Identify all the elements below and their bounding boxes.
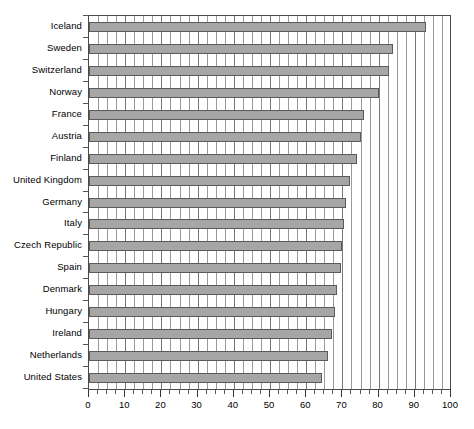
category-label: Hungary	[0, 306, 82, 316]
x-tick-minor	[369, 390, 370, 394]
y-axis-tick	[83, 366, 88, 367]
gridline-minor	[433, 16, 434, 389]
category-label: Switzerland	[0, 65, 82, 75]
gridline-major	[415, 16, 416, 389]
x-tick-minor	[396, 390, 397, 394]
x-tick-label: 0	[85, 399, 90, 410]
bar	[89, 219, 344, 229]
y-axis-tick	[83, 234, 88, 235]
plot-area	[88, 15, 451, 390]
x-tick-minor	[251, 390, 252, 394]
x-tick-major	[124, 390, 125, 397]
x-tick-minor	[423, 390, 424, 394]
x-tick-minor	[224, 390, 225, 394]
x-axis-ticks	[88, 390, 451, 398]
category-label: United States	[0, 372, 82, 382]
bar	[89, 198, 346, 208]
x-tick-label: 30	[191, 399, 202, 410]
x-tick-major	[305, 390, 306, 397]
y-axis-tick	[83, 212, 88, 213]
x-tick-major	[414, 390, 415, 397]
x-tick-minor	[151, 390, 152, 394]
gridline-minor	[442, 16, 443, 389]
x-tick-minor	[405, 390, 406, 394]
y-axis-tick	[83, 256, 88, 257]
x-tick-label: 100	[442, 399, 458, 410]
x-tick-minor	[296, 390, 297, 394]
gridline-minor	[424, 16, 425, 389]
x-tick-minor	[332, 390, 333, 394]
x-tick-minor	[188, 390, 189, 394]
y-axis-tick	[83, 388, 88, 389]
x-tick-label: 80	[372, 399, 383, 410]
category-label: Finland	[0, 153, 82, 163]
x-tick-minor	[432, 390, 433, 394]
x-tick-minor	[215, 390, 216, 394]
y-axis-tick	[83, 147, 88, 148]
bar	[89, 44, 393, 54]
x-tick-label: 50	[264, 399, 275, 410]
x-tick-minor	[133, 390, 134, 394]
x-tick-minor	[206, 390, 207, 394]
x-tick-label: 90	[409, 399, 420, 410]
x-tick-label: 40	[228, 399, 239, 410]
category-label: Netherlands	[0, 350, 82, 360]
x-tick-label: 70	[336, 399, 347, 410]
y-axis-tick	[83, 125, 88, 126]
x-tick-minor	[179, 390, 180, 394]
category-label: France	[0, 109, 82, 119]
category-axis-labels: IcelandSwedenSwitzerlandNorwayFranceAust…	[0, 15, 82, 390]
bar	[89, 329, 332, 339]
category-label: Ireland	[0, 328, 82, 338]
bar	[89, 66, 389, 76]
category-label: Italy	[0, 218, 82, 228]
bar	[89, 22, 426, 32]
x-tick-minor	[350, 390, 351, 394]
bar	[89, 154, 357, 164]
x-tick-minor	[260, 390, 261, 394]
x-tick-minor	[314, 390, 315, 394]
x-tick-major	[341, 390, 342, 397]
category-label: Iceland	[0, 21, 82, 31]
category-label: United Kingdom	[0, 175, 82, 185]
bar	[89, 176, 350, 186]
category-label: Denmark	[0, 284, 82, 294]
x-tick-major	[450, 390, 451, 397]
x-tick-minor	[278, 390, 279, 394]
x-tick-label: 20	[155, 399, 166, 410]
x-tick-label: 60	[300, 399, 311, 410]
bar	[89, 307, 335, 317]
category-label: Norway	[0, 87, 82, 97]
y-axis-tick	[83, 278, 88, 279]
y-axis-tick	[83, 169, 88, 170]
bar	[89, 285, 337, 295]
category-label: Czech Republic	[0, 240, 82, 250]
x-tick-minor	[115, 390, 116, 394]
bar	[89, 132, 361, 142]
y-axis-tick	[83, 344, 88, 345]
x-tick-minor	[97, 390, 98, 394]
category-label: Sweden	[0, 43, 82, 53]
x-tick-major	[197, 390, 198, 397]
bar	[89, 263, 341, 273]
x-tick-major	[269, 390, 270, 397]
x-tick-minor	[287, 390, 288, 394]
x-tick-major	[160, 390, 161, 397]
gridline-minor	[397, 16, 398, 389]
x-tick-minor	[169, 390, 170, 394]
y-axis-tick	[83, 15, 88, 16]
bar-chart: IcelandSwedenSwitzerlandNorwayFranceAust…	[0, 0, 474, 429]
x-tick-minor	[323, 390, 324, 394]
x-tick-minor	[360, 390, 361, 394]
x-tick-major	[233, 390, 234, 397]
bar	[89, 110, 364, 120]
x-tick-major	[378, 390, 379, 397]
category-label: Austria	[0, 131, 82, 141]
y-axis-tick	[83, 59, 88, 60]
gridline-minor	[406, 16, 407, 389]
bar	[89, 88, 379, 98]
category-label: Germany	[0, 197, 82, 207]
bar	[89, 241, 342, 251]
category-label: Spain	[0, 262, 82, 272]
bar	[89, 373, 322, 383]
